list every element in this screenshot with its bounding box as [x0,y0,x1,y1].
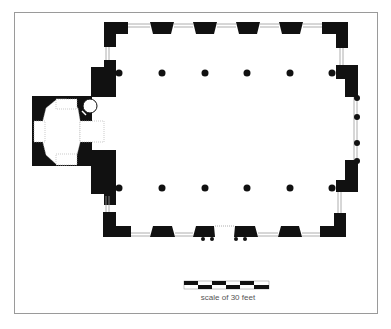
floor-plan [0,0,391,329]
nave-columns-top [116,70,336,77]
nave-walls [91,22,358,241]
nave-columns-bottom [116,185,336,192]
scale-label: scale of 30 feet [180,293,276,302]
window-openings [106,24,357,236]
scale-bar [184,281,269,289]
